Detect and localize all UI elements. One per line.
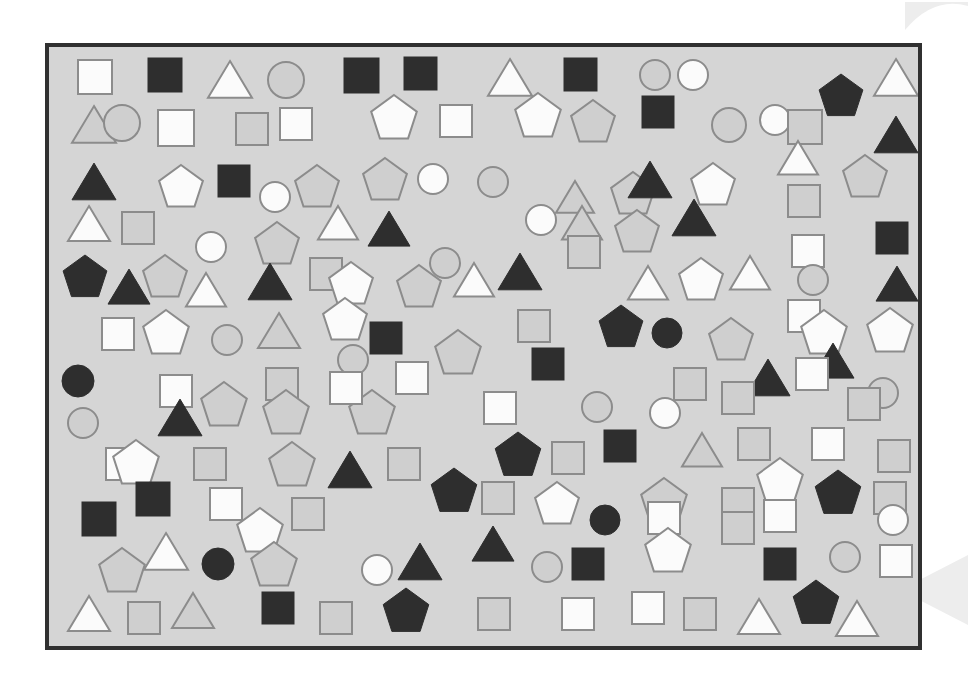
shape-dark-square <box>572 548 604 580</box>
shape-gray-square <box>236 113 268 145</box>
shape-dark-square <box>148 58 182 92</box>
shape-gray-square <box>722 512 754 544</box>
puzzle-canvas <box>0 0 968 697</box>
shape-white-circle <box>760 105 790 135</box>
shape-white-square <box>102 318 134 350</box>
shape-gray-circle <box>532 552 562 582</box>
shape-gray-square <box>552 442 584 474</box>
shape-dark-square <box>344 58 379 93</box>
shape-gray-circle <box>268 62 304 98</box>
shape-scene <box>0 0 968 697</box>
shape-gray-square <box>848 388 880 420</box>
shape-white-square <box>796 358 828 390</box>
shape-gray-square <box>478 598 510 630</box>
shape-dark-circle <box>62 365 94 397</box>
shape-white-square <box>78 60 112 94</box>
shape-gray-square <box>684 598 716 630</box>
shape-white-square <box>160 375 192 407</box>
shape-gray-circle <box>712 108 746 142</box>
shape-gray-circle <box>338 345 368 375</box>
shape-dark-square <box>764 548 796 580</box>
shape-gray-square <box>568 236 600 268</box>
shape-white-square <box>648 502 680 534</box>
shape-gray-circle <box>640 60 670 90</box>
shape-white-circle <box>260 182 290 212</box>
shape-gray-circle <box>582 392 612 422</box>
shape-dark-square <box>564 58 597 91</box>
shape-gray-square <box>674 368 706 400</box>
shape-white-circle <box>878 505 908 535</box>
shape-gray-circle <box>212 325 242 355</box>
shape-gray-square <box>482 482 514 514</box>
shape-white-square <box>764 500 796 532</box>
shape-white-circle <box>526 205 556 235</box>
shape-dark-circle <box>202 548 234 580</box>
shape-white-square <box>440 105 472 137</box>
shape-gray-circle <box>430 248 460 278</box>
shape-gray-square <box>320 602 352 634</box>
shape-white-circle <box>418 164 448 194</box>
shape-white-circle <box>678 60 708 90</box>
shape-gray-square <box>194 448 226 480</box>
shape-white-circle <box>650 398 680 428</box>
shape-gray-square <box>128 602 160 634</box>
shape-dark-circle <box>652 318 682 348</box>
shape-dark-square <box>262 592 294 624</box>
shape-gray-square <box>518 310 550 342</box>
shape-gray-square <box>878 440 910 472</box>
shape-dark-square <box>136 482 170 516</box>
shape-gray-square <box>788 185 820 217</box>
shape-gray-square <box>722 382 754 414</box>
shape-dark-circle <box>590 505 620 535</box>
shape-white-square <box>562 598 594 630</box>
shape-gray-circle <box>478 167 508 197</box>
shape-gray-square <box>788 110 822 144</box>
shape-dark-square <box>82 502 116 536</box>
shape-white-square <box>632 592 664 624</box>
shape-gray-circle <box>798 265 828 295</box>
shape-dark-square <box>532 348 564 380</box>
shape-white-square <box>812 428 844 460</box>
shape-white-square <box>280 108 312 140</box>
shape-white-circle <box>362 555 392 585</box>
shape-gray-square <box>292 498 324 530</box>
shape-dark-square <box>642 96 674 128</box>
shape-dark-square <box>370 322 402 354</box>
shape-gray-square <box>738 428 770 460</box>
shape-white-square <box>330 372 362 404</box>
shape-white-square <box>880 545 912 577</box>
shape-white-square <box>484 392 516 424</box>
shape-gray-circle <box>104 105 140 141</box>
shape-gray-circle <box>68 408 98 438</box>
shape-white-square <box>396 362 428 394</box>
shape-dark-square <box>876 222 908 254</box>
shape-gray-circle <box>830 542 860 572</box>
shape-dark-square <box>218 165 250 197</box>
shape-dark-square <box>604 430 636 462</box>
shape-white-circle <box>196 232 226 262</box>
shape-gray-square <box>122 212 154 244</box>
shape-gray-square <box>388 448 420 480</box>
shape-dark-square <box>404 57 437 90</box>
shape-white-square <box>158 110 194 146</box>
shape-white-square <box>210 488 242 520</box>
shape-white-square <box>792 235 824 267</box>
